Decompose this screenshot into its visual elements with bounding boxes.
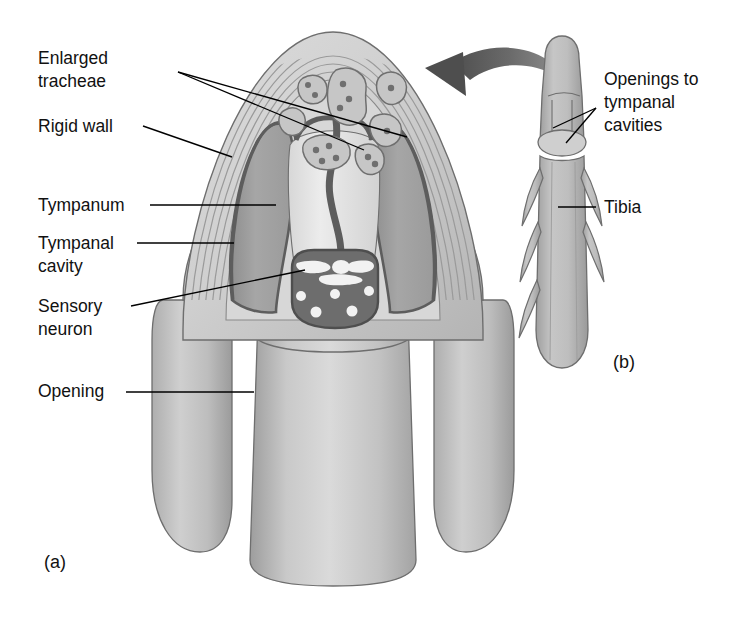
label-tympanal-cavity-line1: Tympanal — [38, 233, 114, 253]
trachea-dot — [312, 92, 318, 98]
label-enlarged-tracheae-line1: Enlarged — [38, 48, 108, 68]
trachea-dot — [326, 143, 332, 149]
neuron-cell — [347, 306, 358, 317]
neuron-cell — [330, 289, 340, 299]
label-tibia: Tibia — [604, 197, 642, 217]
neuron-cell — [364, 286, 374, 296]
trachea-dot — [365, 154, 371, 160]
trachea-dot — [340, 81, 346, 87]
center-lobe — [250, 316, 416, 586]
label-openings-line3: cavities — [604, 115, 663, 135]
label-sensory-neuron-line1: Sensory — [38, 296, 102, 316]
label-rigid-wall: Rigid wall — [38, 116, 113, 136]
trachea-dot — [319, 158, 325, 164]
label-opening: Opening — [38, 381, 104, 401]
label-openings-line1: Openings to — [604, 69, 698, 89]
trachea-dot — [313, 147, 319, 153]
tibia-shaft — [536, 156, 588, 368]
trachea-dot — [372, 161, 378, 167]
neuron-cell — [332, 260, 350, 274]
panel-label-a: (a) — [44, 552, 66, 572]
trachea-dot — [333, 155, 339, 161]
neuron-cell — [296, 291, 306, 301]
trachea-dot — [305, 82, 311, 88]
figure-root: Enlarged tracheae Rigid wall Tympanum Ty… — [0, 0, 732, 621]
label-openings-line2: tympanal — [604, 92, 675, 112]
label-sensory-neuron-line2: neuron — [38, 319, 93, 339]
tibia-joint — [538, 130, 586, 156]
label-tympanum: Tympanum — [38, 195, 125, 215]
label-tympanal-cavity-line2: cavity — [38, 256, 83, 276]
trachea-blob-1 — [298, 75, 327, 104]
label-enlarged-tracheae-line2: tracheae — [38, 71, 106, 91]
panel-label-b: (b) — [613, 352, 635, 372]
tympanal-organ-diagram: Enlarged tracheae Rigid wall Tympanum Ty… — [0, 0, 732, 621]
trachea-dot — [388, 85, 394, 91]
sensory-neuron-group — [292, 250, 378, 328]
trachea-dot — [346, 96, 352, 102]
trachea-dot — [337, 105, 343, 111]
trachea-blob-6 — [303, 135, 350, 170]
trachea-blob-4 — [279, 108, 305, 136]
tibia-distal-segment — [540, 36, 584, 142]
neuron-cell — [311, 307, 322, 318]
